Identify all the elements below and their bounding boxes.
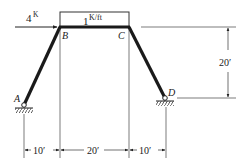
distributed-load-unit: K/ft	[89, 13, 103, 22]
node-label-c: C	[118, 30, 125, 41]
node-label-a: A	[13, 93, 21, 104]
height-dimension-label: 20′	[219, 57, 231, 68]
span-dimension-left: 10′	[25, 145, 59, 156]
horizontal-load-unit: K	[33, 10, 39, 19]
distributed-load-magnitude: 1	[83, 15, 89, 27]
member-a-b	[24, 27, 60, 105]
node-label-b: B	[62, 30, 68, 41]
span-left-label: 10′	[33, 145, 45, 156]
frame-diagram: 1 K/ft 4 K B C A D 20′ 10′	[0, 0, 246, 166]
span-mid-label: 20′	[87, 145, 99, 156]
span-dimension-mid: 20′	[61, 145, 128, 156]
pin-support-a	[15, 103, 33, 113]
node-label-d: D	[167, 87, 176, 98]
horizontal-load-magnitude: 4	[26, 12, 32, 24]
span-dimension-right: 10′	[130, 145, 165, 156]
member-c-d	[129, 27, 165, 98]
span-right-label: 10′	[139, 145, 151, 156]
height-dimension: 20′	[219, 28, 231, 97]
